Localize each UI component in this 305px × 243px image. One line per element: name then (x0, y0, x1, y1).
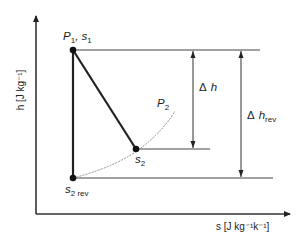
x-axis-label: s [J kg⁻¹k⁻¹] (216, 221, 270, 232)
point-s2-rev-label: s2 rev (65, 183, 89, 198)
delta-h-rev-label: Δhrev (247, 109, 276, 124)
curve-p2-label: P2 (157, 97, 170, 112)
point-s2-rev (70, 175, 77, 182)
y-axis-label: h [J kg⁻¹] (15, 70, 26, 111)
point-s2 (133, 146, 140, 153)
point-s2-label: s2 (135, 153, 146, 168)
delta-h-label: Δh (199, 81, 217, 93)
isobar-p2-curve (73, 111, 175, 178)
actual-expansion-line (73, 50, 136, 149)
hs-diagram: P1, s1 P2 s2 s2 rev Δh Δhrev h [J kg⁻¹] … (0, 0, 305, 243)
point-p1-s1 (70, 47, 77, 54)
point-p1-label: P1, s1 (63, 30, 92, 45)
